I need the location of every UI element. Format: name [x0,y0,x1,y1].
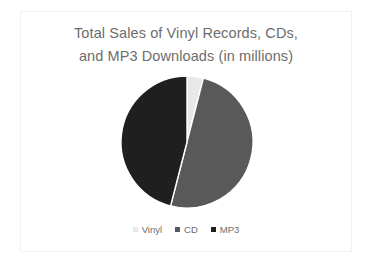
legend-label-mp3: MP3 [220,224,240,235]
chart-frame: Total Sales of Vinyl Records, CDs, and M… [20,11,352,252]
pie-chart-area [21,70,352,215]
legend-swatch-mp3-icon [211,227,216,232]
chart-legend: Vinyl CD MP3 [21,224,351,235]
legend-swatch-vinyl-icon [133,227,138,232]
legend-label-vinyl: Vinyl [142,224,162,235]
legend-label-cd: CD [184,224,198,235]
pie-chart-svg [21,70,352,215]
legend-item-vinyl[interactable]: Vinyl [133,224,162,235]
chart-title-line-2: and MP3 Downloads (in millions) [31,45,341,68]
pie-slices-group [121,76,253,208]
chart-title-line-1: Total Sales of Vinyl Records, CDs, [31,22,341,45]
legend-item-mp3[interactable]: MP3 [211,224,240,235]
chart-title: Total Sales of Vinyl Records, CDs, and M… [21,22,351,68]
legend-swatch-cd-icon [175,227,180,232]
legend-item-cd[interactable]: CD [175,224,198,235]
